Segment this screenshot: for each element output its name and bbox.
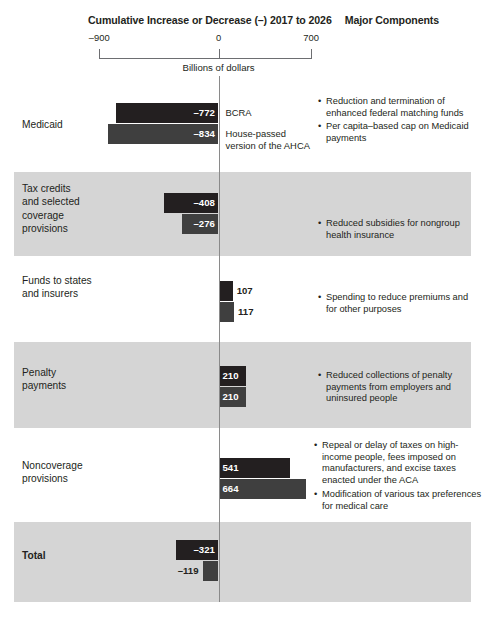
major-component-item: •Modification of various tax preferences… [314,489,482,512]
bar-value-label: 210 [223,387,239,407]
bullet-dot-icon: • [318,292,321,304]
bar-value-label: –772 [194,103,215,123]
bullet-dot-icon: • [318,218,321,230]
bullet-dot-icon: • [318,370,321,382]
major-component-text: Per capita–based cap on Medicaid payment… [326,121,469,143]
category-label: Medicaid [22,118,63,131]
bar-value-label: 541 [223,458,239,478]
bar-ahca [219,302,235,322]
bar-bcra [219,281,233,301]
major-components-list: •Repeal or delay of taxes on high-income… [314,440,482,514]
category-label: Penalty payments [22,366,66,393]
category-label: Funds to states and insurers [22,274,92,301]
category-label: Tax credits and selected coverage provis… [22,182,80,236]
bar-value-label: –119 [178,561,199,581]
bar-value-label: 664 [223,479,239,499]
major-component-text: Modification of various tax preferences … [322,489,481,511]
major-component-item: •Spending to reduce premiums and for oth… [318,292,478,315]
major-component-text: Reduced subsidies for nongroup health in… [326,218,460,240]
major-component-item: •Reduced subsidies for nongroup health i… [318,218,478,241]
bar-value-label: –321 [194,540,215,560]
series-legend-note: BCRA [226,107,252,119]
major-components-list: •Reduced collections of penalty payments… [318,370,478,407]
major-component-text: Spending to reduce premiums and for othe… [326,292,468,314]
category-label: Total [22,549,46,562]
bar-value-label: 210 [223,366,239,386]
row-band-6 [14,522,471,602]
major-component-text: Repeal or delay of taxes on high-income … [322,440,458,485]
bullet-dot-icon: • [314,440,317,452]
bar-value-label: 107 [237,281,253,301]
major-components-list: •Reduced subsidies for nongroup health i… [318,218,478,243]
major-component-item: •Reduction and termination of enhanced f… [318,96,478,119]
bar-value-label: –276 [194,214,215,234]
zero-axis-line [219,76,220,602]
bullet-dot-icon: • [314,489,317,501]
bar-ahca [203,561,219,581]
major-components-list: •Spending to reduce premiums and for oth… [318,292,478,317]
major-component-text: Reduction and termination of enhanced fe… [326,96,463,118]
major-component-item: •Reduced collections of penalty payments… [318,370,478,405]
series-legend-note: House-passed version of the AHCA [226,128,310,151]
major-component-item: •Per capita–based cap on Medicaid paymen… [318,121,478,144]
bar-value-label: –834 [194,124,215,144]
major-component-item: •Repeal or delay of taxes on high-income… [314,440,482,487]
category-label: Noncoverage provisions [22,459,83,486]
bar-value-label: –408 [194,193,215,213]
major-components-list: •Reduction and termination of enhanced f… [318,96,478,147]
major-component-text: Reduced collections of penalty payments … [326,370,452,403]
bar-value-label: 117 [238,302,253,322]
chart-plot-area: Medicaid–772–834BCRAHouse-passed version… [0,0,486,624]
bullet-dot-icon: • [318,96,321,108]
bullet-dot-icon: • [318,121,321,133]
